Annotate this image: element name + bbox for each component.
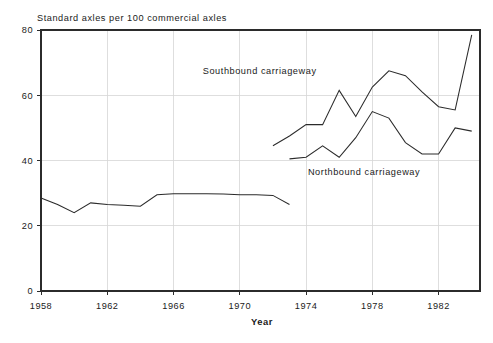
- y-tick-label: 80: [22, 25, 33, 35]
- chart-container: 020406080 1958196219661970197419781982 S…: [0, 0, 493, 343]
- y-tick-label: 60: [22, 91, 33, 101]
- y-tick-labels: 020406080: [22, 25, 33, 296]
- y-tick-label: 20: [22, 221, 33, 231]
- x-tick-labels: 1958196219661970197419781982: [30, 301, 450, 311]
- data-series: [41, 35, 472, 213]
- series-line-combined-carriageway: [41, 194, 289, 213]
- x-tick-label: 1970: [229, 301, 251, 311]
- series-annotation-1: Northbound carriageway: [308, 167, 420, 177]
- chart-title: Standard axles per 100 commercial axles: [37, 13, 227, 23]
- x-tick-label: 1978: [361, 301, 383, 311]
- x-tick-label: 1974: [295, 301, 317, 311]
- line-chart-figure: 020406080 1958196219661970197419781982 S…: [0, 0, 493, 343]
- x-axis-title: Year: [251, 316, 273, 327]
- series-annotation-0: Southbound carriageway: [203, 66, 317, 76]
- x-tick-label: 1958: [30, 301, 52, 311]
- y-tick-label: 40: [22, 156, 33, 166]
- y-tick-label: 0: [27, 286, 33, 296]
- x-tick-label: 1962: [96, 301, 118, 311]
- x-tick-label: 1966: [162, 301, 184, 311]
- x-tick-label: 1982: [427, 301, 449, 311]
- series-line-northbound-carriageway: [289, 112, 471, 159]
